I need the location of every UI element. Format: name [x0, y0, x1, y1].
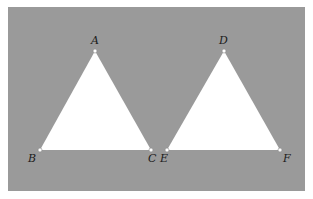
gray-background — [8, 7, 305, 191]
label-d: D — [218, 34, 228, 47]
label-e: E — [159, 152, 168, 165]
label-f: F — [282, 152, 291, 165]
vertex-b-point — [38, 148, 42, 152]
vertex-a-point — [93, 49, 97, 53]
vertex-f-point — [278, 148, 282, 152]
vertex-d-point — [222, 49, 226, 53]
label-c: C — [148, 152, 157, 165]
label-a: A — [90, 34, 99, 47]
label-b: B — [27, 152, 36, 165]
two-triangles-diagram: A B C D E F — [0, 0, 313, 199]
